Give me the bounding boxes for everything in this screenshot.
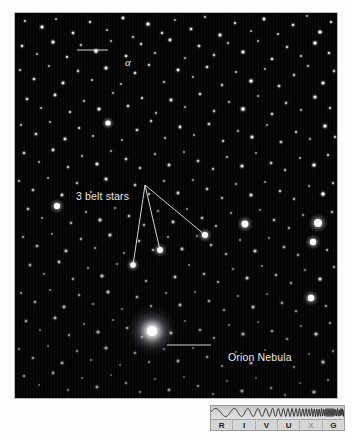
spectrum-waveform (211, 406, 344, 420)
annotation-label-orion-nebula: Orion Nebula (228, 351, 292, 363)
spectrum-band-gamma-ray: G (323, 420, 344, 431)
spectrum-band-labels: RIVUXG (211, 420, 344, 431)
spectrum-band-radio: R (211, 420, 233, 431)
annotation-leader-lines (15, 13, 337, 398)
spectrum-band-infrared: I (233, 420, 255, 431)
spectrum-band-visible: V (256, 420, 278, 431)
annotation-label-alpha: α (125, 56, 131, 68)
figure-page: α 3 belt stars Orion Nebula RIVUXG (0, 0, 352, 436)
electromagnetic-spectrum-key: RIVUXG (210, 405, 345, 431)
spectrum-band-ultraviolet: U (278, 420, 300, 431)
annotation-label-belt-stars: 3 belt stars (76, 190, 129, 202)
orion-photograph-plate: α 3 belt stars Orion Nebula (15, 13, 337, 398)
spectrum-band-x-ray: X (300, 420, 322, 431)
